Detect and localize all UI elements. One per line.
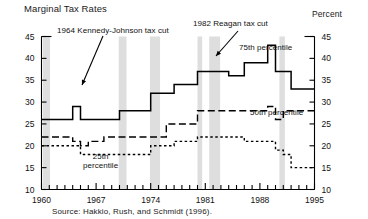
annotation-reagan-tax-cut: 1982 Reagan tax cut xyxy=(193,19,268,28)
svg-text:45: 45 xyxy=(322,32,332,42)
chart-series xyxy=(42,45,315,167)
svg-text:10: 10 xyxy=(25,185,35,195)
svg-text:45: 45 xyxy=(25,32,35,42)
svg-text:1981: 1981 xyxy=(196,195,215,205)
svg-text:15: 15 xyxy=(322,163,332,173)
recession-band xyxy=(43,37,50,190)
svg-text:15: 15 xyxy=(25,163,35,173)
svg-text:30: 30 xyxy=(322,97,332,107)
recession-band xyxy=(198,37,203,190)
svg-text:10: 10 xyxy=(322,185,332,195)
recession-band xyxy=(150,37,160,190)
series-label-50th-percentile: 50th percentile xyxy=(250,108,303,117)
svg-text:1967: 1967 xyxy=(87,195,106,205)
series-label-25th-line1: 25th xyxy=(83,152,118,161)
svg-text:30: 30 xyxy=(25,97,35,107)
series-label-25th-line2: percentile xyxy=(83,161,118,170)
svg-text:1974: 1974 xyxy=(141,195,160,205)
svg-text:1995: 1995 xyxy=(305,195,324,205)
svg-text:25: 25 xyxy=(322,119,332,129)
svg-text:35: 35 xyxy=(25,75,35,85)
series-label-25th-percentile: 25th percentile xyxy=(83,152,118,170)
recession-bands xyxy=(43,37,285,190)
svg-text:20: 20 xyxy=(322,141,332,151)
svg-text:40: 40 xyxy=(25,53,35,63)
chart-figure: Marginal Tax Rates Percent 1010151520202… xyxy=(0,0,368,219)
series-label-75th-percentile: 75th percentile xyxy=(239,43,292,52)
svg-text:25: 25 xyxy=(25,119,35,129)
source-note: Source: Hakkio, Rush, and Schmidt (1996)… xyxy=(52,207,212,216)
recession-band xyxy=(209,37,220,190)
svg-text:20: 20 xyxy=(25,141,35,151)
chart-tick-labels: 1010151520202525303035354040454519601967… xyxy=(25,32,331,205)
chart-canvas: 1010151520202525303035354040454519601967… xyxy=(0,0,368,219)
svg-text:35: 35 xyxy=(322,75,332,85)
annotation-kennedy-tax-cut: 1964 Kennedy-Johnson tax cut xyxy=(57,26,169,35)
svg-text:1960: 1960 xyxy=(32,195,51,205)
svg-text:1988: 1988 xyxy=(250,195,269,205)
svg-text:40: 40 xyxy=(322,53,332,63)
